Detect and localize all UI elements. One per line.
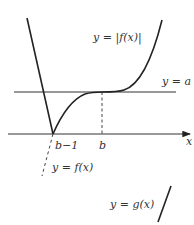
graph-diagram: y = |f(x)| y = a x b−1 b y = f(x) y = g(… xyxy=(0,0,194,225)
label-abs-f: y = |f(x)| xyxy=(92,31,142,45)
label-y-equals-a: y = a xyxy=(161,75,191,88)
curve-abs-f-left xyxy=(27,18,53,134)
label-g: y = g(x) xyxy=(109,198,154,211)
label-x-axis: x xyxy=(186,135,193,148)
label-b-minus-1: b−1 xyxy=(55,139,78,152)
label-b: b xyxy=(99,139,106,152)
graph-svg: y = |f(x)| y = a x b−1 b y = f(x) y = g(… xyxy=(0,0,194,225)
line-g xyxy=(158,186,171,222)
label-f: y = f(x) xyxy=(51,161,93,174)
